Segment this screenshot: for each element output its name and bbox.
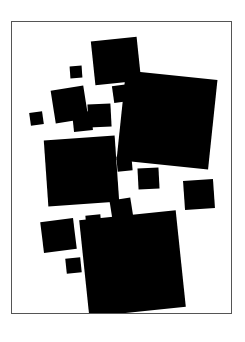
artwork-canvas: [0, 0, 245, 342]
black-square-04: [112, 84, 131, 103]
black-square-03: [117, 70, 218, 169]
black-square-12: [183, 179, 215, 210]
black-square-02: [70, 66, 83, 79]
black-square-08: [72, 111, 93, 132]
black-square-10: [116, 155, 132, 171]
black-square-09: [44, 136, 119, 207]
black-square-15: [85, 214, 101, 230]
black-square-11: [137, 167, 159, 189]
black-square-17: [65, 257, 81, 273]
black-square-07: [29, 111, 44, 126]
black-square-16: [40, 218, 77, 253]
artwork-frame: [11, 21, 232, 314]
